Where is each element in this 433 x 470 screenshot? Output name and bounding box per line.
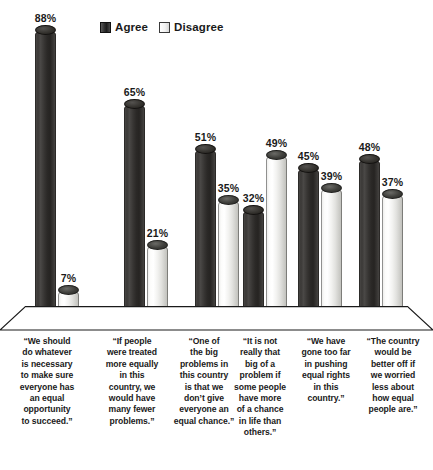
category-caption: “If peoplewere treatedmore equallyin thi…	[95, 336, 169, 427]
caption-line: is necessary	[21, 359, 72, 369]
caption-line: don’t give	[184, 393, 224, 403]
bar-value-label: 32%	[243, 192, 264, 204]
bar-slot: 45%	[297, 168, 320, 313]
caption-line: to make sure	[21, 370, 73, 380]
bar-cylinder-disagree[interactable]: 37%	[382, 194, 403, 313]
bar-group: 48%37%	[358, 0, 404, 313]
bar-group: 88%7%	[34, 0, 80, 313]
caption-line: many fewer	[109, 404, 156, 414]
bar-cylinder-disagree[interactable]: 35%	[218, 200, 239, 313]
bar-cap-ellipse-icon	[298, 163, 319, 173]
caption-line: “We should	[23, 336, 70, 346]
caption-line: more equally	[106, 359, 158, 369]
caption-line: do whatever	[22, 347, 72, 357]
bar-cap-ellipse-icon	[218, 195, 239, 205]
bar-slot: 88%	[34, 30, 57, 313]
caption-line: “One of	[188, 336, 219, 346]
caption-line: gone too far	[301, 347, 350, 357]
bar-slot: 37%	[381, 194, 404, 313]
bar-group: 65%21%	[123, 0, 169, 313]
bar-group: 51%35%	[194, 0, 240, 313]
bar-slot: 35%	[217, 200, 240, 313]
caption-line: would have	[109, 393, 155, 403]
bar-cap-ellipse-icon	[147, 240, 168, 250]
category-caption: “We shoulddo whateveris necessaryto make…	[8, 336, 86, 427]
bar-value-label: 51%	[195, 131, 216, 143]
caption-line: have more	[239, 393, 282, 403]
bar-group: 32%49%	[242, 0, 288, 313]
caption-line: less about	[372, 382, 414, 392]
bar-cylinder-agree[interactable]: 45%	[298, 168, 319, 313]
caption-line: of a chance	[237, 404, 284, 414]
caption-line: really that	[240, 347, 280, 357]
bar-value-label: 39%	[321, 170, 342, 182]
bar-slot: 49%	[265, 155, 288, 313]
caption-line: everyone an	[179, 404, 229, 414]
bar-value-label: 35%	[218, 182, 239, 194]
caption-line: would be	[375, 347, 412, 357]
caption-line: we worried	[371, 370, 415, 380]
caption-line: country.”	[307, 393, 344, 403]
bar-value-label: 45%	[298, 150, 319, 162]
bar-group: 45%39%	[297, 0, 343, 313]
caption-line: “If people	[112, 336, 151, 346]
bar-cap-ellipse-icon	[35, 25, 56, 35]
category-captions: “We shoulddo whateveris necessaryto make…	[0, 336, 433, 470]
bar-value-label: 37%	[382, 176, 403, 188]
category-caption: “It is notreally thatbig of aproblem ifs…	[225, 336, 295, 439]
caption-line: opportunity	[23, 404, 70, 414]
bar-cap-ellipse-icon	[266, 150, 287, 160]
caption-line: in this	[120, 370, 145, 380]
caption-line: “We have	[307, 336, 346, 346]
caption-line: the big	[190, 347, 218, 357]
bar-cylinder-disagree[interactable]: 21%	[147, 245, 168, 313]
caption-line: problems in	[180, 359, 228, 369]
bar-cylinder-agree[interactable]: 48%	[359, 159, 380, 313]
bar-slot: 21%	[146, 245, 169, 313]
bar-slot: 32%	[242, 210, 265, 313]
bar-cylinder-disagree[interactable]: 39%	[321, 188, 342, 313]
bar-slot: 39%	[320, 188, 343, 313]
caption-line: people are.”	[368, 404, 417, 414]
caption-line: an equal	[30, 393, 64, 403]
chart-root: Agree Disagree 88%7%65%21%51%35%32%49%45…	[0, 0, 433, 470]
bar-value-label: 21%	[147, 227, 168, 239]
bar-cap-ellipse-icon	[359, 154, 380, 164]
chart-platform	[0, 306, 433, 332]
caption-line: this country	[180, 370, 229, 380]
caption-line: “The country	[367, 336, 420, 346]
caption-line: better off if	[371, 359, 415, 369]
plot-area: 88%7%65%21%51%35%32%49%45%39%48%37%	[0, 0, 433, 318]
bar-cylinder-agree[interactable]: 51%	[195, 149, 216, 313]
caption-line: in life than	[239, 416, 281, 426]
bar-cap-ellipse-icon	[382, 189, 403, 199]
bar-cylinder-agree[interactable]: 65%	[124, 104, 145, 313]
bar-slot: 48%	[358, 159, 381, 313]
caption-line: in this	[314, 382, 339, 392]
caption-line: country, we	[109, 382, 156, 392]
category-caption: “We havegone too farin pushingequal righ…	[290, 336, 362, 404]
bar-cylinder-agree[interactable]: 88%	[35, 30, 56, 313]
bar-slot: 51%	[194, 149, 217, 313]
bar-cap-ellipse-icon	[195, 144, 216, 154]
bar-cylinder-agree[interactable]: 32%	[243, 210, 264, 313]
caption-line: in pushing	[305, 359, 348, 369]
bar-value-label: 48%	[359, 141, 380, 153]
bar-value-label: 65%	[124, 86, 145, 98]
caption-line: were treated	[107, 347, 157, 357]
caption-line: “It is not	[243, 336, 277, 346]
caption-line: how equal	[372, 393, 414, 403]
bar-value-label: 49%	[266, 137, 287, 149]
bar-value-label: 7%	[61, 272, 76, 284]
caption-line: some people	[234, 382, 286, 392]
bar-cap-ellipse-icon	[124, 99, 145, 109]
caption-line: big of a	[245, 359, 275, 369]
bar-cap-ellipse-icon	[58, 285, 79, 295]
caption-line: is that we	[185, 382, 224, 392]
category-caption: “The countrywould bebetter off ifwe worr…	[355, 336, 431, 416]
bar-groups: 88%7%65%21%51%35%32%49%45%39%48%37%	[0, 0, 433, 313]
caption-line: everyone has	[20, 382, 74, 392]
bar-cylinder-disagree[interactable]: 49%	[266, 155, 287, 313]
caption-line: problem if	[239, 370, 280, 380]
bar-cap-ellipse-icon	[321, 183, 342, 193]
